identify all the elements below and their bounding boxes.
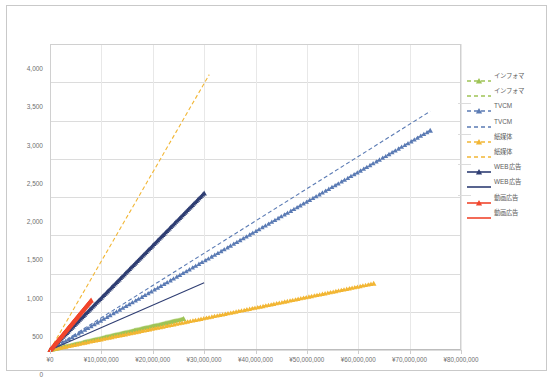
x-axis-tick-label: ¥40,000,000	[238, 356, 273, 363]
x-axis-tick-label: ¥50,000,000	[289, 356, 324, 363]
x-axis-tickmark	[410, 350, 411, 354]
x-axis-tick-label: ¥30,000,000	[187, 356, 222, 363]
legend-item-label: WEB広告	[494, 178, 530, 185]
y-axis-tick-label: 3,000	[27, 141, 43, 148]
legend-key-swatch	[466, 179, 492, 191]
legend-item-label: WEB広告	[494, 163, 530, 170]
legend-item[interactable]: TVCM	[466, 102, 530, 117]
x-axis-tickmark	[358, 350, 359, 354]
x-axis-tick-label: ¥70,000,000	[392, 356, 427, 363]
legend-item[interactable]: WEB広告	[466, 163, 530, 178]
series-TVCM-markers	[48, 128, 433, 352]
x-axis-tickmark	[153, 350, 154, 354]
chart-legend: インフォマインフォマTVCMTVCM紙媒体紙媒体WEB広告WEB広告動画広告動画…	[466, 72, 532, 224]
legend-key-swatch	[466, 195, 492, 207]
legend-item[interactable]: WEB広告	[466, 178, 530, 193]
y-axis-tick-label: 4,000	[27, 65, 43, 72]
legend-item[interactable]: 紙媒体	[466, 133, 530, 148]
x-axis-tickmark	[256, 350, 257, 354]
legend-key-swatch	[466, 88, 492, 100]
x-axis-tick-label: ¥20,000,000	[135, 356, 170, 363]
x-axis-tickmark	[50, 350, 51, 354]
x-axis-tickmark	[461, 350, 462, 354]
legend-item-label: TVCM	[494, 102, 530, 109]
legend-item[interactable]: インフォマ	[466, 72, 530, 87]
legend-separator	[458, 195, 471, 196]
x-axis-tick-label: ¥0	[46, 356, 53, 363]
legend-key-swatch	[466, 210, 492, 222]
legend-key-swatch	[466, 103, 492, 115]
series-layer	[50, 44, 461, 350]
y-axis-tick-label: 1,500	[27, 256, 43, 263]
legend-item-label: インフォマ	[494, 72, 530, 79]
legend-item-label: 紙媒体	[494, 133, 530, 140]
legend-item[interactable]: 動画広告	[466, 209, 530, 224]
legend-separator	[458, 134, 471, 135]
x-axis-tickmark	[307, 350, 308, 354]
data-point-marker	[201, 190, 207, 195]
y-axis-tick-label: 0	[39, 371, 43, 378]
y-axis-tick-label: 500	[32, 332, 43, 339]
legend-item-label: 動画広告	[494, 194, 530, 201]
plot-area	[50, 44, 461, 350]
x-axis-tickmark	[204, 350, 205, 354]
series-line	[50, 283, 204, 350]
legend-item-label: 紙媒体	[494, 148, 530, 155]
gridline-vertical	[461, 44, 462, 350]
x-axis-labels: ¥0¥10,000,000¥20,000,000¥30,000,000¥40,0…	[50, 356, 461, 370]
x-axis-tick-label: ¥80,000,000	[443, 356, 478, 363]
x-axis-tickmark	[101, 350, 102, 354]
legend-item-label: TVCM	[494, 118, 530, 125]
series-紙媒体-markers	[48, 281, 377, 352]
legend-key-swatch	[466, 134, 492, 146]
legend-item-label: インフォマ	[494, 87, 530, 94]
legend-item[interactable]: TVCM	[466, 118, 530, 133]
legend-item[interactable]: インフォマ	[466, 87, 530, 102]
y-axis-tick-label: 1,000	[27, 294, 43, 301]
legend-separator	[458, 164, 471, 165]
legend-item[interactable]: 紙媒体	[466, 148, 530, 163]
x-axis-tick-label: ¥60,000,000	[341, 356, 376, 363]
series-WEB広告-trend	[50, 283, 204, 350]
legend-key-swatch	[466, 164, 492, 176]
series-TVCM-trend	[50, 111, 430, 350]
y-axis-tick-label: 3,500	[27, 103, 43, 110]
legend-item[interactable]: 動画広告	[466, 194, 530, 209]
legend-key-swatch	[466, 119, 492, 131]
data-point-marker	[88, 297, 94, 302]
x-axis-tick-label: ¥10,000,000	[84, 356, 119, 363]
chart-frame: 05001,0001,5002,0002,5003,0003,5004,000 …	[6, 5, 547, 371]
y-axis-tick-label: 2,000	[27, 218, 43, 225]
legend-key-swatch	[466, 149, 492, 161]
legend-item-label: 動画広告	[494, 209, 530, 216]
data-point-marker	[427, 128, 433, 133]
y-axis-labels: 05001,0001,5002,0002,5003,0003,5004,000	[23, 44, 47, 350]
legend-key-swatch	[466, 73, 492, 85]
x-axis-tickmarks	[50, 350, 461, 355]
legend-separator	[458, 103, 471, 104]
series-line	[50, 111, 430, 350]
chart-area: 05001,0001,5002,0002,5003,0003,5004,000 …	[23, 20, 531, 357]
y-axis-tick-label: 2,500	[27, 179, 43, 186]
